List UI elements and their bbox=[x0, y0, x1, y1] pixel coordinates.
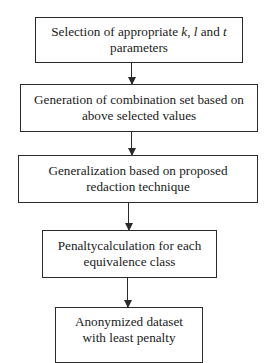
arrow-down-icon bbox=[131, 132, 132, 155]
step-5-line-2: with least penalty bbox=[82, 330, 175, 346]
arrow-down-icon bbox=[127, 278, 128, 307]
flow-step-penalty-calculation: Penaltycalculation for each equivalence … bbox=[42, 230, 217, 278]
step-5-line-1: Anonymized dataset bbox=[75, 314, 183, 330]
separator: , bbox=[187, 24, 194, 39]
step-1-text-prefix: Selection of appropriate bbox=[51, 24, 181, 39]
arrow-down-icon bbox=[128, 203, 129, 230]
flow-step-generalization: Generalization based on proposed redacti… bbox=[18, 155, 258, 203]
step-2-line-2: above selected values bbox=[82, 108, 196, 124]
step-3-line-2: redaction technique bbox=[86, 179, 190, 195]
flow-step-combination-generation: Generation of combination set based on a… bbox=[20, 84, 258, 132]
separator: and bbox=[197, 24, 223, 39]
param-t: t bbox=[223, 24, 227, 39]
arrow-down-icon bbox=[131, 63, 132, 84]
flow-step-parameter-selection: Selection of appropriate k, l and t para… bbox=[35, 17, 243, 63]
step-4-line-1: Penaltycalculation for each bbox=[58, 238, 202, 254]
step-1-line-2: parameters bbox=[110, 40, 168, 56]
step-2-line-1: Generation of combination set based on bbox=[34, 92, 244, 108]
step-4-line-2: equivalence class bbox=[84, 254, 176, 270]
step-3-line-1: Generalization based on proposed bbox=[48, 163, 227, 179]
flow-step-anonymized-output: Anonymized dataset with least penalty bbox=[55, 307, 203, 363]
step-1-line-1: Selection of appropriate k, l and t bbox=[51, 24, 226, 40]
